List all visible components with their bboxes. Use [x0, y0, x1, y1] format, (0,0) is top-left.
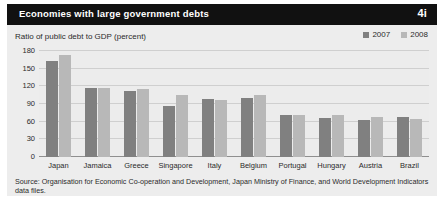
y-axis-tick-label: 150	[22, 63, 35, 72]
bar	[371, 117, 383, 157]
bar-group: Singapore	[156, 51, 195, 157]
legend-label: 2008	[410, 31, 428, 39]
bar	[163, 106, 175, 157]
bar	[215, 100, 227, 157]
bar-group: Brazil	[390, 51, 429, 157]
bar-group: Austria	[351, 51, 390, 157]
legend-item: 2007	[363, 31, 390, 39]
y-axis-tick-label: 60	[27, 116, 35, 125]
bar	[46, 61, 58, 157]
x-axis-tick-label: Greece	[124, 161, 149, 170]
x-axis-tick-label: Italy	[208, 161, 222, 170]
source-text: Source: Organisation for Economic Co-ope…	[15, 177, 429, 195]
bar-groups: JapanJamaicaGreeceSingaporeItalyBelgiumP…	[39, 51, 429, 157]
chart-panel: Ratio of public debt to GDP (percent) 20…	[7, 25, 437, 175]
bar	[124, 91, 136, 157]
bar-group: Greece	[117, 51, 156, 157]
legend-item: 2008	[401, 31, 428, 39]
bar-group: Hungary	[312, 51, 351, 157]
bar	[280, 115, 292, 157]
page-title: Economies with large government debts	[19, 8, 209, 19]
x-axis-tick-label: Japan	[48, 161, 68, 170]
bar	[358, 120, 370, 157]
x-axis-tick-label: Hungary	[317, 161, 345, 170]
bar	[202, 99, 214, 157]
bar	[410, 119, 422, 157]
plot-area: 0306090120150180 JapanJamaicaGreeceSinga…	[39, 51, 429, 157]
chart-figure: Economies with large government debts 4i…	[0, 0, 444, 209]
y-axis-tick-label: 180	[22, 46, 35, 55]
legend-swatch-icon	[363, 32, 369, 38]
y-axis-tick-label: 0	[31, 152, 35, 161]
bar-group: Japan	[39, 51, 78, 157]
bar	[137, 89, 149, 157]
x-axis-tick-label: Belgium	[240, 161, 267, 170]
bar	[293, 115, 305, 157]
figure-number: 4i	[417, 7, 427, 19]
bar	[332, 115, 344, 157]
legend-label: 2007	[372, 31, 390, 39]
bar	[241, 98, 253, 157]
bar	[397, 117, 409, 157]
bar	[85, 88, 97, 157]
x-axis-tick-label: Austria	[359, 161, 382, 170]
bar	[319, 118, 331, 157]
source-note: Source: Organisation for Economic Co-ope…	[7, 175, 437, 196]
bar-group: Belgium	[234, 51, 273, 157]
x-axis-tick-label: Portugal	[279, 161, 307, 170]
bar	[59, 55, 71, 157]
bar	[176, 95, 188, 157]
chart-legend: 20072008	[363, 31, 428, 39]
y-axis-tick-label: 120	[22, 81, 35, 90]
x-axis-tick-label: Jamaica	[84, 161, 112, 170]
figure-header: Economies with large government debts 4i	[7, 4, 437, 25]
y-axis-tick-label: 30	[27, 134, 35, 143]
bar-group: Italy	[195, 51, 234, 157]
x-axis-tick-label: Singapore	[158, 161, 192, 170]
bar	[98, 88, 110, 157]
legend-swatch-icon	[401, 32, 407, 38]
y-axis-tick-label: 90	[27, 99, 35, 108]
chart-subtitle: Ratio of public debt to GDP (percent)	[15, 32, 146, 41]
bar-group: Jamaica	[78, 51, 117, 157]
bar-group: Portugal	[273, 51, 312, 157]
bar	[254, 95, 266, 157]
x-axis-tick-label: Brazil	[400, 161, 419, 170]
